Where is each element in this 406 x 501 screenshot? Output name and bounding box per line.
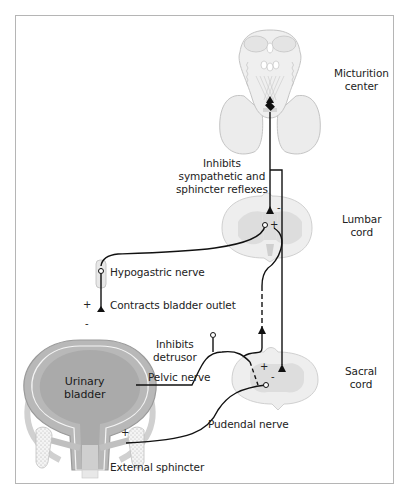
micturition-center-label-line1: Micturition	[334, 67, 389, 80]
outlet-minus-sign: -	[85, 319, 89, 329]
micturition-center-label-line2: center	[334, 80, 389, 93]
lumbar-minus-sign: -	[277, 203, 281, 213]
inhibits-detrusor-line1: Inhibits	[153, 338, 197, 351]
pudendal-nerve-label: Pudendal nerve	[208, 418, 289, 431]
external-sphincter-label: External sphincter	[110, 461, 204, 474]
lumbar-cord-label-line2: cord	[342, 226, 381, 239]
sacral-cord-label: Sacral cord	[345, 365, 377, 391]
hypogastric-nerve-label: Hypogastric nerve	[110, 266, 205, 279]
lumbar-cord-illustration	[222, 193, 312, 262]
inhibits-reflexes-line1: Inhibits	[176, 157, 268, 170]
micturition-center-label: Micturition center	[334, 67, 389, 93]
bladder-illustration	[24, 340, 156, 478]
sacral-cord-label-line2: cord	[345, 378, 377, 391]
inhibits-reflexes-line2: sympathetic and	[176, 170, 268, 183]
sacral-plus-sign: +	[260, 362, 268, 372]
sacral-minus-sign: -	[271, 372, 275, 382]
lumbar-cord-label-line1: Lumbar	[342, 213, 381, 226]
sacral-cord-label-line1: Sacral	[345, 365, 377, 378]
pelvic-nerve-label: Pelvic nerve	[148, 371, 210, 384]
inhibits-detrusor-line2: detrusor	[153, 351, 197, 364]
lumbar-cord-label: Lumbar cord	[342, 213, 381, 239]
urinary-bladder-label-line1: Urinary	[64, 375, 105, 388]
outlet-plus-sign: +	[83, 300, 91, 310]
urinary-bladder-label-line2: bladder	[64, 388, 105, 401]
inhibits-reflexes-label: Inhibits sympathetic and sphincter refle…	[176, 157, 268, 196]
lumbar-plus-sign: +	[270, 220, 278, 230]
inhibits-reflexes-line3: sphincter reflexes	[176, 183, 268, 196]
inhibits-detrusor-label: Inhibits detrusor	[153, 338, 197, 364]
urinary-bladder-label: Urinary bladder	[64, 375, 105, 401]
contracts-outlet-label: Contracts bladder outlet	[110, 299, 236, 312]
sphincter-plus-sign: +	[121, 428, 129, 438]
